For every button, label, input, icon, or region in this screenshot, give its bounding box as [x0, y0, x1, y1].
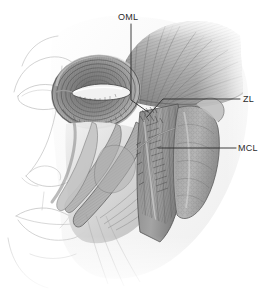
label-oml: OML — [118, 13, 138, 22]
label-zl: ZL — [243, 95, 254, 104]
label-mcl: MCL — [238, 144, 258, 153]
facial-anatomy-illustration — [0, 0, 276, 289]
